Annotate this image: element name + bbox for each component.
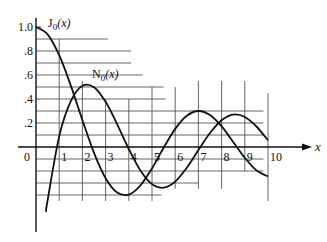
y-tick-label: 1.0: [18, 20, 33, 34]
j0-label: J0(x): [48, 16, 71, 32]
bessel-function-chart: 012345678910 1.0.8.6.4.2 x J0(x)N0(x): [0, 0, 327, 242]
n0-curve: [46, 85, 268, 212]
x-tick-label: 3: [108, 150, 114, 164]
x-tick-label: 0: [24, 150, 30, 164]
x-axis-arrow-icon: [302, 144, 312, 151]
y-tick-label: .6: [24, 68, 33, 82]
y-tick-label: .2: [24, 116, 33, 130]
y-tick-label: .8: [24, 44, 33, 58]
x-tick-label: 7: [200, 150, 206, 164]
n0-label: N0(x): [92, 67, 119, 83]
x-tick-label: 8: [224, 150, 230, 164]
y-tick-labels: 1.0.8.6.4.2: [18, 20, 33, 130]
x-tick-label: 2: [84, 150, 90, 164]
x-tick-label: 10: [270, 150, 282, 164]
x-tick-label: 1: [61, 150, 67, 164]
y-tick-label: .4: [24, 92, 33, 106]
x-axis-label: x: [314, 139, 321, 154]
series-labels: J0(x)N0(x): [48, 16, 119, 83]
x-tick-label: 6: [177, 150, 183, 164]
